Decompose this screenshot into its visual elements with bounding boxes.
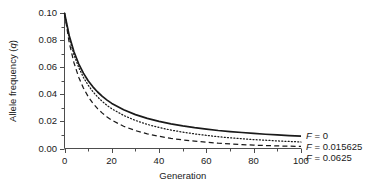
x-tick-label: 40 — [154, 156, 165, 166]
y-tick-label: 0.10 — [39, 8, 58, 18]
legend-value: = 0.0625 — [312, 152, 352, 163]
y-tick-label: 0.04 — [39, 89, 58, 99]
x-tick-label: 60 — [201, 156, 212, 166]
series-line-1 — [65, 13, 302, 142]
data-series-group — [65, 13, 302, 146]
y-tick-label: 0.00 — [39, 144, 58, 154]
legend-value: = 0.015625 — [312, 141, 362, 152]
x-tick-label: 0 — [62, 156, 67, 166]
y-tick-label: 0.08 — [39, 35, 58, 45]
legend-item-2: F = 0.0625 — [306, 153, 352, 163]
series-line-0 — [65, 13, 302, 136]
chart-figure: Allele frequency (q) 020406080100 0.000.… — [0, 0, 380, 191]
legend-item-0: F = 0 — [306, 131, 328, 141]
y-tick-label: 0.06 — [39, 62, 58, 72]
x-tick-label: 20 — [106, 156, 117, 166]
x-axis-ticks — [66, 149, 302, 154]
y-axis-ticks — [60, 14, 65, 150]
y-tick-label: 0.02 — [39, 116, 58, 126]
y-axis-title: Allele frequency (q) — [7, 40, 18, 122]
legend-item-1: F = 0.015625 — [306, 142, 362, 152]
x-tick-label: 80 — [248, 156, 259, 166]
x-axis-title: Generation — [159, 171, 206, 181]
legend-value: = 0 — [312, 130, 328, 141]
